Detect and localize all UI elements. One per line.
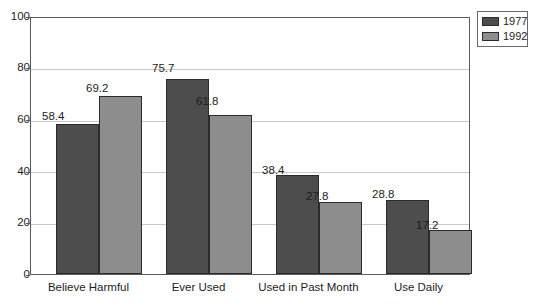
bar-value-1977-use-daily: 28.8 [372,188,394,200]
y-axis: 100 80 60 40 20 0 [0,0,30,292]
legend-label-1977: 1977 [503,16,527,27]
legend-label-1992: 1992 [503,31,527,42]
bar-1992-believe-harmful [99,96,142,274]
x-category-label-ever-used: Ever Used [143,281,254,294]
y-tick-mark-0 [26,275,30,276]
legend-item-1977: 1977 [482,15,523,28]
bar-1977-believe-harmful [56,124,99,274]
legend-swatch-1992-icon [482,32,499,41]
x-category-label-use-daily: Use Daily [363,281,474,294]
bar-1992-ever-used [209,115,252,274]
bar-1977-use-daily [386,200,429,274]
bar-chart: 100 80 60 40 20 0 58.4 69.2 75.7 6 [0,0,534,308]
bar-value-1992-used-in-past-month: 27.8 [306,190,328,202]
x-category-label-used-in-past-month: Used in Past Month [253,281,364,294]
legend-swatch-1977-icon [482,17,499,26]
bar-1992-use-daily [429,230,472,274]
bar-value-1992-use-daily: 17.2 [416,219,438,231]
bar-1992-used-in-past-month [319,202,362,274]
gridline-80 [31,69,469,70]
bar-1977-ever-used [166,79,209,274]
bar-value-1992-believe-harmful: 69.2 [86,82,108,94]
bar-value-1977-ever-used: 75.7 [152,62,174,74]
legend: 1977 1992 [477,11,528,47]
x-category-label-believe-harmful: Believe Harmful [33,281,144,294]
bar-value-1977-believe-harmful: 58.4 [42,110,64,122]
bar-value-1992-ever-used: 61.8 [196,95,218,107]
plot-area [30,17,470,275]
legend-item-1992: 1992 [482,30,523,43]
bar-value-1977-used-in-past-month: 38.4 [262,164,284,176]
